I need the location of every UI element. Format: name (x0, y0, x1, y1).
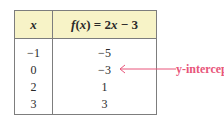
header-x: x (15, 11, 52, 38)
cell-fx: −5 (53, 45, 156, 62)
cell-x: 3 (15, 96, 52, 113)
table-header: x f(x) = 2x − 3 (15, 11, 156, 39)
table-row: 3 3 (15, 96, 156, 113)
header-fx: f(x) = 2x − 3 (53, 11, 156, 38)
cell-x: 2 (15, 79, 52, 96)
header-rhs: = 2 (91, 17, 111, 32)
y-intercept-label: y-intercept (176, 62, 224, 77)
cell-fx: 3 (53, 96, 156, 113)
table-row: 2 1 (15, 79, 156, 96)
cell-x: −1 (15, 45, 52, 62)
cell-x: 0 (15, 62, 52, 79)
arrow-left-icon (118, 64, 176, 74)
function-table: x f(x) = 2x − 3 −1 −5 0 −3 2 1 3 3 (14, 10, 157, 115)
cell-fx: 1 (53, 79, 156, 96)
header-rhs-tail: − 3 (118, 17, 138, 32)
table-row: −1 −5 (15, 45, 156, 62)
